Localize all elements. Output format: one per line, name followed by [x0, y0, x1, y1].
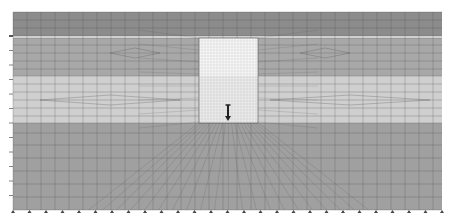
support-icon [374, 210, 378, 213]
support-icon [407, 210, 411, 213]
support-icon [242, 210, 246, 213]
support-icon [259, 210, 263, 213]
left-axis-ticks [9, 36, 13, 196]
support-icon [110, 210, 114, 213]
support-icon [176, 210, 180, 213]
support-icon [292, 210, 296, 213]
top-layer [13, 12, 442, 36]
fe-mesh-diagram [0, 0, 451, 220]
support-icon [61, 210, 65, 213]
support-icon [94, 210, 98, 213]
support-icon [160, 210, 164, 213]
support-icon [226, 210, 230, 213]
support-icon [391, 210, 395, 213]
support-icon [143, 210, 147, 213]
bottom-supports [11, 210, 444, 213]
support-icon [11, 210, 15, 213]
support-icon [440, 210, 444, 213]
support-icon [424, 210, 428, 213]
support-icon [44, 210, 48, 213]
support-icon [28, 210, 32, 213]
support-icon [341, 210, 345, 213]
support-icon [325, 210, 329, 213]
support-icon [127, 210, 131, 213]
support-icon [308, 210, 312, 213]
support-icon [209, 210, 213, 213]
support-icon [358, 210, 362, 213]
support-icon [77, 210, 81, 213]
support-icon [193, 210, 197, 213]
support-icon [275, 210, 279, 213]
